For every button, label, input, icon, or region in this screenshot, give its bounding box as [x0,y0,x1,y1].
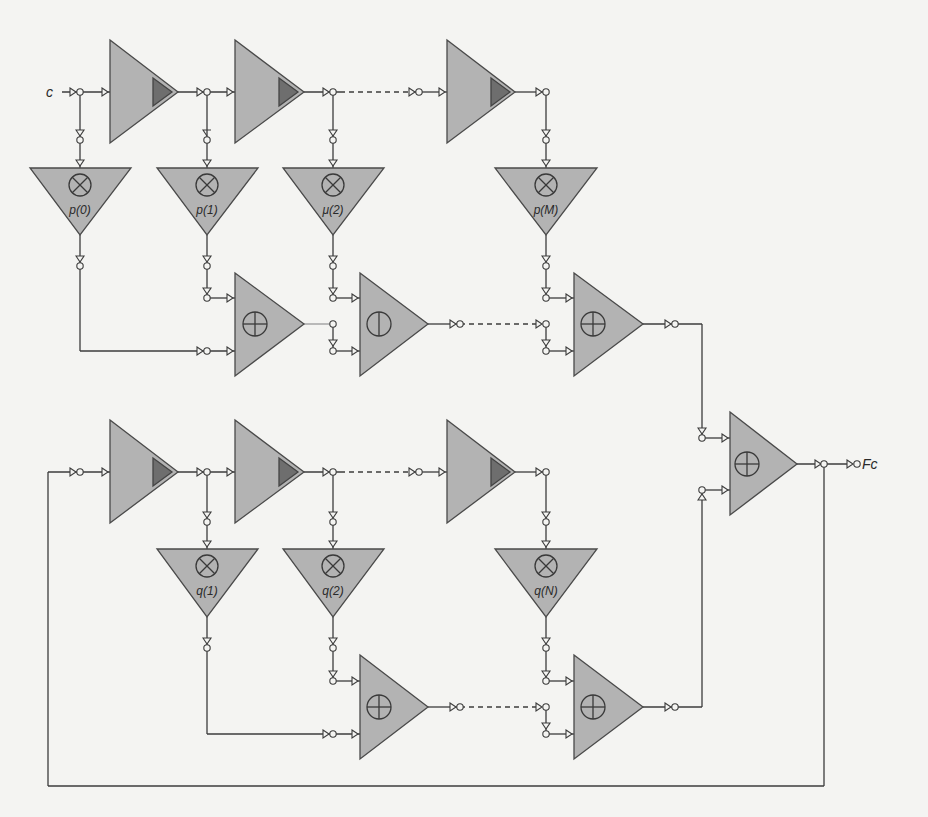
add-icon [581,312,605,336]
multiplier-qN[interactable] [495,549,597,617]
delay-blocks [110,40,515,523]
add-icon [735,452,759,476]
multiplier-q1[interactable] [157,549,258,617]
multiplier-blocks [30,168,597,617]
input-label: c [46,84,53,100]
delay-block-bottom-N[interactable] [447,420,515,523]
coef-label-q1: q(1) [196,584,217,598]
arrow-down-markers [76,130,706,729]
add-icon [581,695,605,719]
coef-label-qN: q(N) [534,584,557,598]
add-icon [367,695,391,719]
multiplier-p2[interactable] [283,168,384,235]
adder-bottom-N[interactable] [574,655,643,759]
delay-block-bottom-1[interactable] [110,420,178,523]
coef-label-p2: μ(2) [321,203,343,217]
adder-blocks [235,273,797,759]
adder-top-2[interactable] [360,273,428,376]
adder-bottom-2[interactable] [360,655,428,759]
output-label: Fc [862,456,878,472]
multiplier-q2[interactable] [283,549,384,617]
coef-label-pM: p(M) [533,203,559,217]
coef-label-p1: p(1) [195,203,217,217]
multiplier-p0[interactable] [30,168,131,235]
labels: c Fc p(0) p(1) μ(2) p(M) q(1) q(2) q(N) [46,84,878,598]
delay-block-top-M[interactable] [447,40,515,143]
multiplier-pM[interactable] [495,168,597,235]
add-icon [243,312,267,336]
adder-top-1[interactable] [235,273,304,376]
delay-block-top-1[interactable] [110,40,178,143]
coef-label-p0: p(0) [68,203,90,217]
multiplier-p1[interactable] [157,168,258,235]
arrow-up-markers [698,494,706,500]
adder-final[interactable] [730,412,797,515]
coef-label-q2: q(2) [322,584,343,598]
delay-block-bottom-2[interactable] [235,420,304,523]
adder-top-M[interactable] [574,273,643,376]
filter-diagram: c Fc p(0) p(1) μ(2) p(M) q(1) q(2) q(N) [0,0,928,817]
delay-block-top-2[interactable] [235,40,304,143]
